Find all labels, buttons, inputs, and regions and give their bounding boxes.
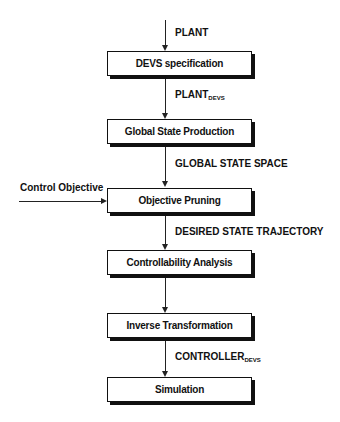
box-global-state-production: Global State Production [107, 119, 252, 144]
arrow-desired-state-trajectory [165, 216, 166, 245]
box-inverse-transformation: Inverse Transformation [107, 313, 252, 338]
box-controllability-analysis: Controllability Analysis [107, 250, 252, 275]
edge-label-controller-devs: CONTROLLERDEVS [175, 351, 261, 363]
edge-label-plant: PLANT [175, 27, 208, 38]
box-objective-pruning: Objective Pruning [107, 188, 252, 213]
edge-label-desired-state-trajectory: DESIRED STATE TRAJECTORY [175, 226, 324, 237]
box-devs-specification: DEVS specification [107, 51, 252, 76]
arrow-controller-devs [165, 341, 166, 372]
arrow-control-objective [19, 201, 102, 202]
box-simulation: Simulation [107, 377, 252, 402]
edge-label-global-state-space: GLOBAL STATE SPACE [175, 158, 288, 169]
side-input-label: Control Objective [20, 182, 103, 193]
edge-label-plant-devs: PLANTDEVS [175, 89, 225, 101]
arrow-control-to-inverse [165, 278, 166, 308]
arrow-global-state-space [165, 147, 166, 182]
arrow-plant [165, 20, 166, 46]
arrow-plant-devs [165, 79, 166, 114]
arrowhead-icon [162, 181, 168, 187]
